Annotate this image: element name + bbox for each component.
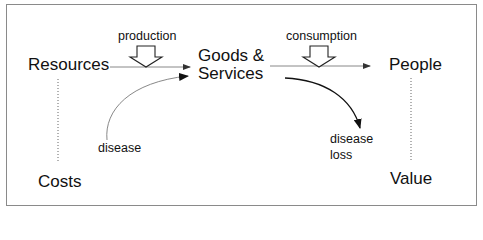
consumption-label: consumption: [286, 30, 357, 43]
disease-label: disease: [98, 142, 141, 155]
resources-node: Resources: [28, 56, 109, 73]
goods-node-line1: Goods &: [198, 47, 264, 64]
disease-loss-arrow: [285, 78, 360, 128]
disease-loss-label-line1: disease: [330, 133, 373, 146]
disease-arrow: [107, 76, 188, 140]
goods-node-line2: Services: [198, 65, 263, 82]
disease-loss-label-line2: loss: [330, 149, 352, 162]
value-node: Value: [390, 170, 432, 187]
production-label: production: [118, 30, 176, 43]
production-hollow-arrow-icon: [130, 46, 162, 67]
people-node: People: [389, 56, 442, 73]
consumption-hollow-arrow-icon: [303, 46, 335, 67]
costs-node: Costs: [38, 173, 81, 190]
